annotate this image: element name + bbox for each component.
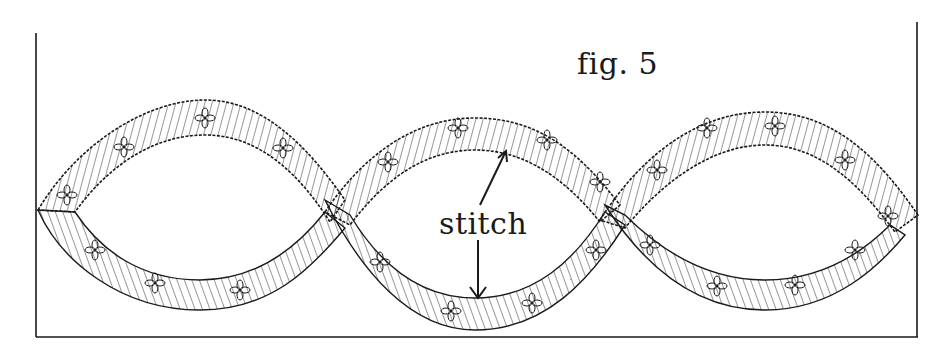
ribbon-illustration bbox=[0, 0, 944, 362]
stitch-callout-label: stitch bbox=[439, 206, 527, 241]
ribbon-loop-right bbox=[600, 112, 918, 310]
ribbon-loop-left bbox=[38, 100, 345, 310]
lower-arrow bbox=[470, 240, 486, 298]
figure-caption: fig. 5 bbox=[577, 46, 658, 81]
figure-canvas: fig. 5 stitch bbox=[0, 0, 944, 362]
upper-arrow bbox=[480, 151, 507, 205]
